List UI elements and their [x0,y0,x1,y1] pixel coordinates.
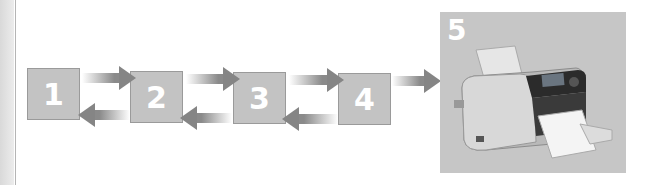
arrow-right-icon [289,68,344,92]
workflow-diagram: 1 2 3 4 5 [0,0,645,185]
step-label: 3 [249,81,270,116]
step-label: 5 [447,14,466,47]
step-box-5-printer-photo: 5 [440,12,626,173]
arrow-right-icon [82,66,136,90]
photo-printer-icon [440,12,626,173]
step-box-3: 3 [233,72,286,124]
step-box-1: 1 [27,68,80,120]
step-label: 1 [43,77,64,112]
arrow-left-icon [180,106,232,130]
arrow-left-icon [78,103,130,127]
page-edge [0,0,14,185]
step-box-4: 4 [338,73,391,125]
arrow-right-icon [392,69,441,93]
step-label: 2 [146,80,167,115]
arrow-left-icon [282,107,338,131]
margin-line [15,0,16,185]
arrow-right-icon [186,67,240,91]
step-label: 4 [354,82,375,117]
step-box-2: 2 [130,71,183,123]
